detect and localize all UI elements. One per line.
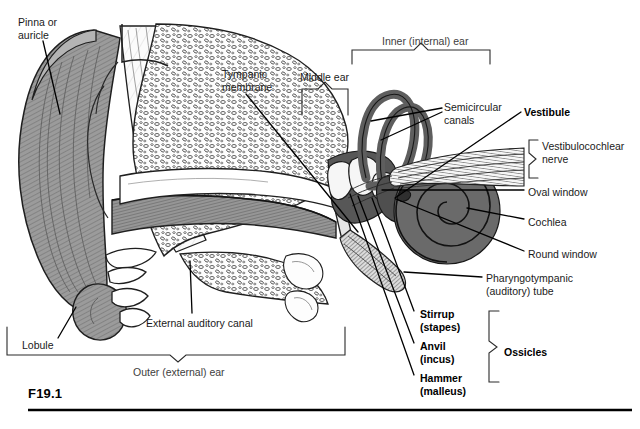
figure-rule-layer bbox=[0, 0, 640, 429]
figure-canvas: Pinna or auricleTympanic membraneMiddle … bbox=[0, 0, 640, 429]
